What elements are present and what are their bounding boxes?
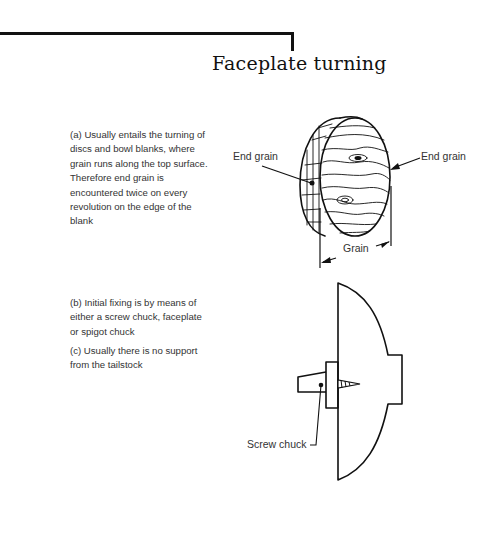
label-end-grain-right: End grain: [421, 150, 466, 162]
label-end-grain-left: End grain: [233, 150, 278, 162]
screw-chuck-illustration: [0, 0, 491, 560]
label-screw-chuck: Screw chuck: [247, 438, 307, 450]
label-grain: Grain: [343, 242, 369, 254]
